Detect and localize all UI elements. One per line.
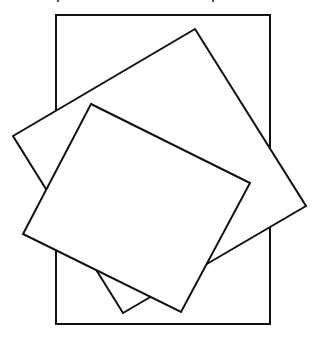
diagram-canvas (0, 0, 323, 339)
